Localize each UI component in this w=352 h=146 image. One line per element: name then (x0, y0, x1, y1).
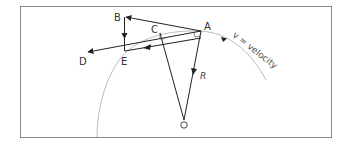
label-velocity: v = velocity (231, 30, 280, 71)
label-e: E (121, 56, 127, 67)
vector-a-to-d (88, 31, 201, 52)
vector-a-to-o (184, 31, 201, 120)
label-b: B (114, 12, 121, 23)
line-c-to-o (160, 33, 184, 120)
vector-a-to-b (126, 17, 201, 31)
circular-path-arc (97, 31, 266, 137)
arrowhead-a-e (143, 44, 151, 50)
label-r: R (200, 71, 206, 81)
arrowhead-b-e (122, 33, 128, 39)
label-a: A (204, 21, 211, 32)
circular-motion-diagram: A B C D E O R v = velocity (0, 0, 352, 146)
arrowhead-r (191, 68, 197, 75)
center-point-o (181, 122, 187, 128)
label-c: C (151, 24, 158, 35)
label-d: D (79, 56, 87, 67)
